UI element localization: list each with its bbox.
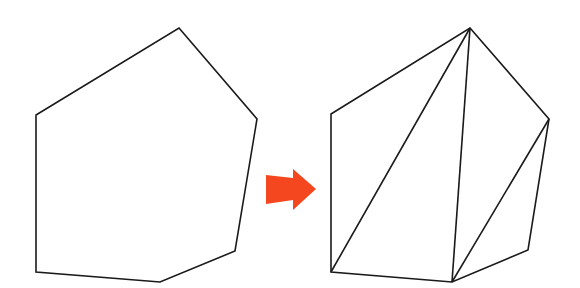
arrow-right-icon bbox=[266, 169, 316, 210]
original-hexagon bbox=[36, 28, 257, 282]
triangulated-hexagon bbox=[331, 28, 549, 282]
diagram-canvas bbox=[0, 0, 580, 288]
triangulation-diagonals bbox=[331, 28, 549, 282]
diagonal-2 bbox=[452, 28, 470, 282]
diagram-svg bbox=[0, 0, 580, 288]
diagonal-3 bbox=[452, 119, 549, 282]
diagonal-1 bbox=[331, 28, 470, 272]
